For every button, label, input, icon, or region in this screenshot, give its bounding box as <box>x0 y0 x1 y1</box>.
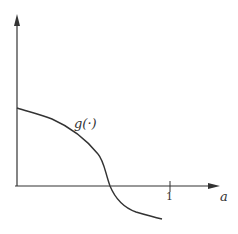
function-plot: g(·) 1 a <box>0 0 238 234</box>
curve-label: g(·) <box>74 116 97 131</box>
x-axis-arrow-icon <box>208 183 220 189</box>
y-axis-arrow-icon <box>14 14 20 26</box>
tick-label: 1 <box>166 190 173 203</box>
x-axis-label: a <box>220 189 228 204</box>
